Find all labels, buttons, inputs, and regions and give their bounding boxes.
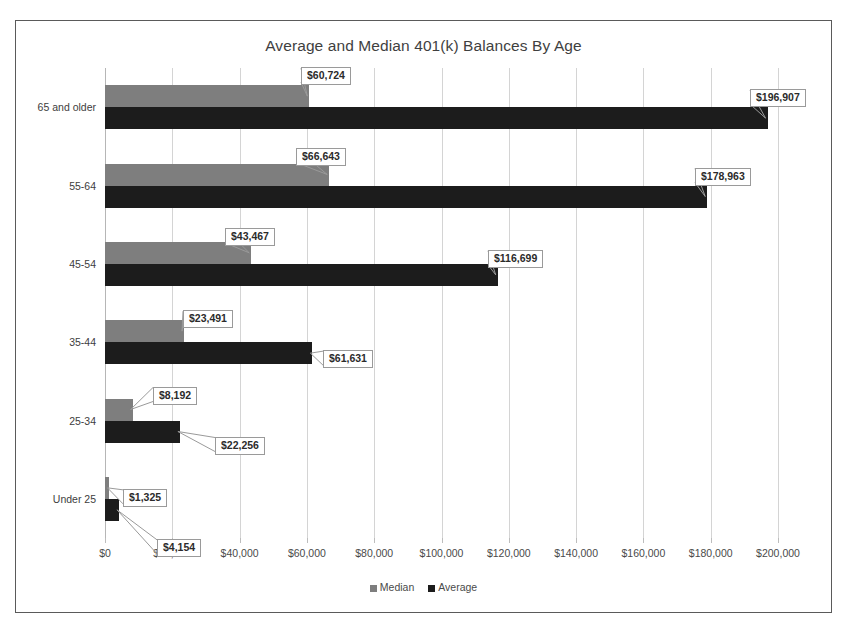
data-label-callout: $196,907 bbox=[750, 89, 806, 107]
category-label: 25-34 bbox=[69, 415, 96, 427]
gridline bbox=[643, 68, 644, 538]
chart-legend: MedianAverage bbox=[16, 581, 831, 593]
gridline bbox=[576, 68, 577, 538]
data-label-callout: $22,256 bbox=[215, 437, 265, 455]
data-label-callout: $66,643 bbox=[296, 148, 346, 166]
chart-container: Average and Median 401(k) Balances By Ag… bbox=[15, 20, 832, 613]
x-tick-label: $160,000 bbox=[621, 547, 665, 559]
category-label: Under 25 bbox=[53, 493, 96, 505]
tick-mark bbox=[442, 538, 443, 543]
legend-item[interactable]: Average bbox=[428, 581, 477, 593]
bar-median[interactable] bbox=[105, 320, 184, 342]
gridline bbox=[509, 68, 510, 538]
tick-mark bbox=[374, 538, 375, 543]
gridline bbox=[374, 68, 375, 538]
x-tick-label: $200,000 bbox=[756, 547, 800, 559]
legend-label: Average bbox=[438, 581, 477, 593]
bar-median[interactable] bbox=[105, 85, 309, 107]
x-tick-label: $0 bbox=[99, 547, 111, 559]
tick-mark bbox=[105, 538, 106, 543]
gridline bbox=[442, 68, 443, 538]
gridline bbox=[240, 68, 241, 538]
bar-median[interactable] bbox=[105, 477, 109, 499]
category-label: 65 and older bbox=[38, 101, 96, 113]
chart-title: Average and Median 401(k) Balances By Ag… bbox=[16, 37, 831, 55]
gridline bbox=[172, 68, 173, 538]
bar-average[interactable] bbox=[105, 264, 498, 286]
bar-median[interactable] bbox=[105, 164, 329, 186]
tick-mark bbox=[576, 538, 577, 543]
data-label-callout: $8,192 bbox=[153, 387, 197, 405]
tick-mark bbox=[509, 538, 510, 543]
data-label-callout: $43,467 bbox=[225, 228, 275, 246]
x-tick-label: $60,000 bbox=[288, 547, 326, 559]
x-tick-label: $40,000 bbox=[221, 547, 259, 559]
x-tick-label: $80,000 bbox=[355, 547, 393, 559]
bar-average[interactable] bbox=[105, 186, 707, 208]
data-label-callout: $1,325 bbox=[123, 489, 167, 507]
gridline bbox=[105, 68, 106, 538]
category-label: 55-64 bbox=[69, 180, 96, 192]
legend-item[interactable]: Median bbox=[370, 581, 414, 593]
legend-swatch-icon bbox=[428, 585, 435, 592]
data-label-callout: $4,154 bbox=[157, 539, 201, 557]
tick-mark bbox=[778, 538, 779, 543]
bar-average[interactable] bbox=[105, 421, 180, 443]
data-label-callout: $23,491 bbox=[183, 310, 233, 328]
category-label: 35-44 bbox=[69, 336, 96, 348]
x-tick-label: $120,000 bbox=[487, 547, 531, 559]
x-tick-label: $180,000 bbox=[689, 547, 733, 559]
tick-mark bbox=[711, 538, 712, 543]
x-tick-label: $100,000 bbox=[420, 547, 464, 559]
legend-label: Median bbox=[380, 581, 414, 593]
tick-mark bbox=[240, 538, 241, 543]
legend-swatch-icon bbox=[370, 585, 377, 592]
bar-median[interactable] bbox=[105, 399, 133, 421]
category-label: 45-54 bbox=[69, 258, 96, 270]
plot-area: $0$20,000$40,000$60,000$80,000$100,000$1… bbox=[105, 68, 778, 538]
data-label-callout: $61,631 bbox=[323, 350, 373, 368]
bar-average[interactable] bbox=[105, 499, 119, 521]
data-label-callout: $178,963 bbox=[695, 168, 751, 186]
x-tick-label: $140,000 bbox=[554, 547, 598, 559]
bar-average[interactable] bbox=[105, 342, 312, 364]
gridline bbox=[711, 68, 712, 538]
data-label-callout: $60,724 bbox=[301, 67, 351, 85]
data-label-callout: $116,699 bbox=[488, 250, 543, 268]
tick-mark bbox=[643, 538, 644, 543]
tick-mark bbox=[307, 538, 308, 543]
gridline bbox=[778, 68, 779, 538]
bar-average[interactable] bbox=[105, 107, 768, 129]
gridline bbox=[307, 68, 308, 538]
